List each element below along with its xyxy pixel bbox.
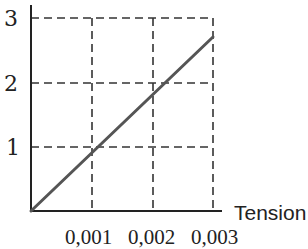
axes bbox=[31, 5, 222, 211]
y-tick-2: 2 bbox=[4, 71, 18, 96]
x-axis-label: Tension bbox=[234, 201, 306, 224]
x-tick-2: 0,002 bbox=[128, 225, 175, 249]
chart: 3 2 1 0,001 0,002 0,003 Tension bbox=[0, 0, 308, 249]
x-tick-1: 0,001 bbox=[65, 225, 112, 249]
y-tick-3: 3 bbox=[4, 6, 18, 31]
x-tick-labels: 0,001 0,002 0,003 bbox=[65, 225, 238, 249]
gridlines bbox=[31, 18, 213, 211]
y-tick-labels: 3 2 1 bbox=[4, 6, 20, 160]
data-line bbox=[31, 37, 213, 211]
y-tick-1: 1 bbox=[6, 135, 20, 160]
x-tick-3: 0,003 bbox=[191, 225, 238, 249]
